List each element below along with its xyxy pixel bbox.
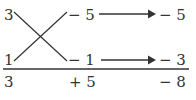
total-right-value: − 8 <box>159 74 186 90</box>
arrow-bottom-head <box>148 56 156 65</box>
right-bottom-value: − 3 <box>159 52 186 68</box>
arrow-top-head <box>148 10 156 19</box>
left-top-value: 3 <box>4 7 14 23</box>
left-bottom-value: 1 <box>4 52 14 68</box>
total-middle-value: + 5 <box>69 74 96 90</box>
middle-top-value: − 5 <box>68 7 95 23</box>
middle-bottom-value: − 1 <box>68 52 95 68</box>
total-left-value: 3 <box>4 74 14 90</box>
right-top-value: − 5 <box>159 7 186 23</box>
